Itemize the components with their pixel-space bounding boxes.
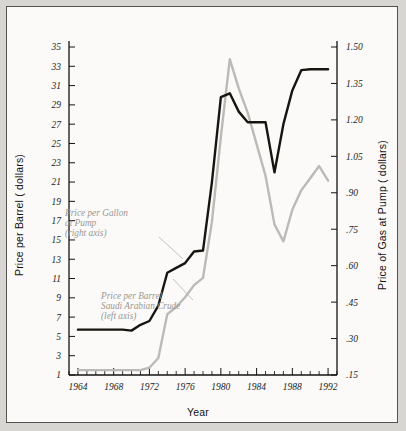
x-axis-title: Year bbox=[187, 406, 209, 418]
right-axis-tick-label: .60 bbox=[346, 261, 358, 271]
x-axis-tick-label: 1976 bbox=[176, 382, 195, 392]
left-axis-tick-label: 5 bbox=[56, 332, 61, 342]
left-axis-tick-label: 17 bbox=[52, 216, 63, 226]
left-axis-tick-label: 35 bbox=[51, 42, 62, 52]
x-axis-tick-label: 1988 bbox=[283, 382, 302, 392]
crude-annotation-line3: (left axis) bbox=[101, 311, 136, 322]
x-axis: 19641968197219761980198419881992 bbox=[68, 368, 337, 392]
right-axis-tick-label: 1.50 bbox=[346, 42, 363, 52]
left-axis-tick-label: 13 bbox=[52, 255, 62, 265]
right-axis-tick-label: 1.05 bbox=[346, 152, 363, 162]
x-axis-tick-label: 1992 bbox=[319, 382, 338, 392]
crude-annotation-line1: Price per Barrel bbox=[100, 291, 163, 301]
left-axis-tick-label: 7 bbox=[56, 313, 62, 323]
left-axis-tick-label: 25 bbox=[52, 139, 62, 149]
left-axis-tick-label: 9 bbox=[56, 293, 61, 303]
crude-annotation: Price per Barrel Saudi Arabian Crude (le… bbox=[100, 291, 180, 322]
left-axis-tick-label: 33 bbox=[51, 62, 62, 72]
right-axis-tick-label: .90 bbox=[346, 188, 358, 198]
x-axis-tick-label: 1980 bbox=[211, 382, 230, 392]
x-axis-tick-label: 1964 bbox=[68, 382, 87, 392]
right-axis-title: Price of Gas at Pump ( dollars) bbox=[376, 140, 388, 290]
left-axis-tick-label: 31 bbox=[51, 81, 62, 91]
chart-plot-area: 1357911131517192123252729313335 .15.30.4… bbox=[7, 7, 399, 424]
right-axis-tick-label: 1.35 bbox=[346, 79, 363, 89]
right-axis-tick-label: .30 bbox=[346, 334, 358, 344]
gas-annotation-line3: (right axis) bbox=[65, 228, 107, 239]
left-axis-tick-label: 1 bbox=[56, 370, 61, 380]
left-axis-title: Price per Barrel ( dollars) bbox=[13, 154, 25, 276]
gas-annotation: Price per Gallon at Pump (right axis) bbox=[64, 208, 128, 239]
left-axis-tick-label: 15 bbox=[52, 235, 62, 245]
left-axis-tick-label: 29 bbox=[52, 100, 62, 110]
right-axis: .15.30.45.60.75.901.051.201.351.50 bbox=[331, 41, 363, 380]
right-axis-tick-label: 1.20 bbox=[346, 115, 363, 125]
left-axis-tick-label: 11 bbox=[52, 274, 61, 284]
left-axis-tick-label: 3 bbox=[55, 351, 61, 361]
left-axis-tick-label: 27 bbox=[52, 120, 63, 130]
x-axis-tick-label: 1984 bbox=[247, 382, 266, 392]
gas-annotation-leader-line bbox=[159, 237, 183, 259]
chart-figure: 1357911131517192123252729313335 .15.30.4… bbox=[6, 6, 398, 423]
gas-annotation-line1: Price per Gallon bbox=[64, 208, 128, 218]
x-axis-tick-label: 1972 bbox=[140, 382, 159, 392]
x-axis-tick-label: 1968 bbox=[104, 382, 123, 392]
dual-axis-line-chart: 1357911131517192123252729313335 .15.30.4… bbox=[7, 7, 399, 424]
crude-annotation-line2: Saudi Arabian Crude bbox=[101, 301, 180, 311]
gas-annotation-line2: at Pump bbox=[65, 218, 97, 228]
right-axis-tick-label: .45 bbox=[346, 298, 358, 308]
left-axis-tick-label: 21 bbox=[52, 177, 62, 187]
right-axis-tick-label: .15 bbox=[346, 370, 358, 380]
right-axis-tick-label: .75 bbox=[346, 225, 358, 235]
left-axis-tick-label: 23 bbox=[52, 158, 62, 168]
left-axis-tick-label: 19 bbox=[52, 197, 62, 207]
